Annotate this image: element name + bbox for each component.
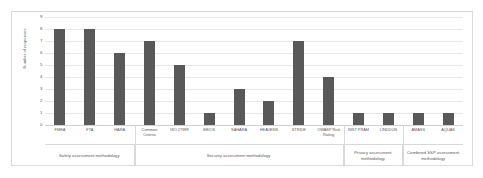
bar[interactable] [293,41,304,125]
y-axis-tick-label: 2 [40,99,42,103]
bar-series [45,17,463,125]
y-axis-tick-label: 6 [40,51,42,55]
x-axis-tick-label: FTA [75,127,105,144]
x-axis-tick-label: Common Criteria [135,127,165,144]
bar-chart-figure: Number of responses 0123456789 FMEAFTAHA… [0,0,483,178]
bar[interactable] [174,65,185,125]
bar-slot [45,17,75,125]
bar[interactable] [114,53,125,125]
bar-slot [433,17,463,125]
x-axis-tick-label: ISO 27999 [164,127,194,144]
bar[interactable] [323,77,334,125]
x-axis-tick-labels: FMEAFTAHARACommon CriteriaISO 27999EBIOS… [45,127,463,144]
x-axis-tick-label: LINDDUN [373,127,403,144]
bar[interactable] [443,113,454,125]
bar[interactable] [413,113,424,125]
bar[interactable] [84,29,95,125]
y-axis-title: Number of responses [22,14,27,84]
plot-area: 0123456789 [45,17,463,125]
bar[interactable] [204,113,215,125]
bar-slot [284,17,314,125]
x-axis-tick-label: HARA [105,127,135,144]
y-axis-tick-label: 4 [40,75,42,79]
chart-plot-frame: Number of responses 0123456789 FMEAFTAHA… [11,11,473,166]
bar-slot [164,17,194,125]
x-axis-tick-label: FMEA [45,127,75,144]
x-axis-tick-label: EBIOS [194,127,224,144]
y-axis-tick-label: 3 [40,87,42,91]
bar-slot [344,17,374,125]
bar[interactable] [383,113,394,125]
x-axis-tick-label: SAHARA [224,127,254,144]
y-axis-tick-label: 5 [40,63,42,67]
category-group-label: Privacy assessment methodology [344,145,404,166]
y-axis-tick-label: 9 [40,15,42,19]
bar[interactable] [263,101,274,125]
category-group-band: Safety assessment methodologySecurity as… [45,144,463,166]
bar-slot [403,17,433,125]
y-axis-tick-label: 1 [40,111,42,115]
bar-slot [254,17,284,125]
x-axis-tick-label: OWASP Risk Rating [314,127,344,144]
bar-slot [314,17,344,125]
bar[interactable] [54,29,65,125]
bar-slot [373,17,403,125]
y-axis-tick-label: 8 [40,27,42,31]
category-group-label: Safety assessment methodology [45,145,135,166]
bar-slot [135,17,165,125]
x-axis-tick-label: AQUAS [433,127,463,144]
bar-slot [75,17,105,125]
bar[interactable] [144,41,155,125]
x-axis-tick-label: NIST PRAM [344,127,374,144]
x-axis-tick-label: HEAVENS [254,127,284,144]
category-group-label: Security assessment methodology [135,145,344,166]
y-axis-tick-label: 7 [40,39,42,43]
bar[interactable] [353,113,364,125]
gridline [45,125,463,126]
bar[interactable] [234,89,245,125]
x-axis-tick-label: STRIDE [284,127,314,144]
bar-slot [224,17,254,125]
x-axis-tick-label: AMASS [403,127,433,144]
y-axis-tick-label: 0 [40,123,42,127]
category-group-label: Combined SSP assessment methodology [403,145,463,166]
bar-slot [105,17,135,125]
bar-slot [194,17,224,125]
